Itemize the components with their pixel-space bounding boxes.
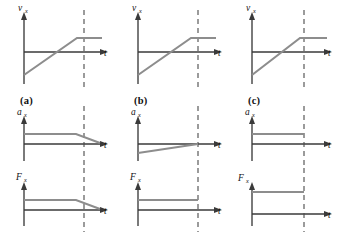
svg-text:x: x — [137, 111, 141, 118]
svg-text:x: x — [23, 111, 27, 118]
panel-c-force-xlabel: t — [328, 210, 331, 220]
panel-c-velocity-xlabel: t — [328, 48, 331, 58]
svg-text:a: a — [131, 107, 136, 117]
svg-text:a: a — [17, 107, 22, 117]
panel-a-label: (a) — [20, 95, 33, 106]
panel-a-acceleration-chart: a x t — [2, 106, 117, 166]
svg-text:F: F — [237, 173, 244, 183]
svg-text:x: x — [252, 7, 256, 14]
panel-c-label: (c) — [248, 95, 260, 106]
svg-text:a: a — [245, 107, 250, 117]
panel-c-velocity-chart: v x t — [230, 4, 347, 90]
panel-a-force-curve — [24, 200, 100, 209]
svg-text:v: v — [132, 4, 137, 13]
panel-a-velocity-chart: v x t — [2, 4, 117, 90]
panel-b-velocity-chart: v x t — [116, 4, 231, 90]
panel-a-acceleration-curve — [24, 134, 100, 143]
svg-text:x: x — [245, 177, 249, 184]
panel-a-force-xlabel: t — [104, 206, 107, 216]
panel-a-velocity-xlabel: t — [104, 48, 107, 58]
physics-graph-figure: v x t (a) a x t F x t v x t — [0, 0, 349, 234]
svg-text:v: v — [246, 4, 251, 13]
panel-b-velocity-xlabel: t — [218, 48, 221, 58]
panel-b-force-xlabel: t — [218, 206, 221, 216]
panel-b-force-chart: F x t — [116, 168, 231, 232]
svg-text:x: x — [137, 176, 141, 183]
panel-c-velocity-curve — [252, 38, 327, 75]
svg-text:x: x — [251, 111, 255, 118]
svg-text:F: F — [15, 172, 22, 182]
panel-a-force-chart: F x t — [2, 168, 117, 232]
svg-text:F: F — [129, 172, 136, 182]
panel-b-acceleration-xlabel: t — [218, 140, 221, 150]
panel-c-acceleration-xlabel: t — [328, 140, 331, 150]
panel-b-label: (b) — [134, 95, 147, 106]
panel-a-velocity-ylabel: v — [18, 4, 23, 13]
panel-c-acceleration-chart: a x t — [230, 106, 347, 166]
panel-b-acceleration-curve — [138, 144, 198, 153]
svg-text:x: x — [138, 7, 142, 14]
panel-c-force-chart: F x t — [230, 168, 347, 232]
panel-b-acceleration-chart: a x t — [116, 106, 231, 166]
panel-a-velocity-curve — [24, 38, 102, 75]
svg-text:x: x — [23, 176, 27, 183]
svg-text:x: x — [24, 7, 28, 14]
panel-a-acceleration-xlabel: t — [104, 140, 107, 150]
panel-b-velocity-curve — [138, 38, 216, 75]
